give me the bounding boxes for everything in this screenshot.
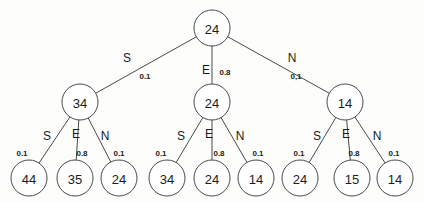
branch-edge-label-prob-left-edge-s: 0.1 xyxy=(16,149,28,158)
leaf-node-leaf-2-value: 35 xyxy=(68,172,82,187)
branch-edge-label-action-left-edge-s: S xyxy=(43,129,51,143)
leaf-node-leaf-9-value: 14 xyxy=(388,172,402,187)
leaf-node-leaf-6-value: 14 xyxy=(249,172,263,187)
branch-edge-label-action-left-edge-n: N xyxy=(101,129,110,143)
root-edge-label-prob-root-edge-e: 0.8 xyxy=(219,68,231,77)
branch-node-n-left-value: 34 xyxy=(73,96,87,111)
branch-edge-label-prob-left-edge-n: 0.1 xyxy=(113,149,125,158)
branch-edge-label-action-mid-edge-e: E xyxy=(205,127,213,141)
leaf-node-leaf-5-value: 24 xyxy=(205,172,219,187)
edge-root-to-n-right xyxy=(228,37,330,93)
branch-edge-label-prob-mid-edge-n: 0.1 xyxy=(252,149,264,158)
diagram-canvas: 24342414443524342414241514 S0.1E0.8N0,1S… xyxy=(0,0,424,202)
root-edge-label-action-root-edge-s: S xyxy=(123,51,131,65)
branch-edge-label-prob-mid-edge-e: 0.8 xyxy=(213,149,225,158)
edge-root-to-n-left xyxy=(96,37,197,93)
root-edge-label-prob-root-edge-n: 0,1 xyxy=(290,72,302,81)
branch-node-n-mid-value: 24 xyxy=(205,96,219,111)
branch-edge-label-action-mid-edge-n: N xyxy=(236,129,245,143)
branch-edge-label-action-mid-edge-s: S xyxy=(177,129,185,143)
branch-edge-label-prob-right-edge-s: 0.1 xyxy=(293,149,305,158)
branch-edge-label-prob-mid-edge-s: 0.1 xyxy=(155,149,167,158)
nodes-layer: 24342414443524342414241514 xyxy=(11,10,413,196)
branch-node-n-right-value: 14 xyxy=(338,96,352,111)
root-edge-label-action-root-edge-e: E xyxy=(202,63,210,77)
tree-diagram: 24342414443524342414241514 S0.1E0.8N0,1S… xyxy=(0,0,424,202)
root-node-value: 24 xyxy=(205,22,219,37)
leaf-node-leaf-7-value: 24 xyxy=(293,172,307,187)
branch-edge-label-action-right-edge-e: E xyxy=(342,127,350,141)
branch-edge-label-prob-right-edge-e: 0.8 xyxy=(348,149,360,158)
root-edge-label-prob-root-edge-s: 0.1 xyxy=(139,72,151,81)
branch-edge-label-action-right-edge-n: N xyxy=(373,129,382,143)
branch-edge-label-prob-left-edge-e: 0.8 xyxy=(76,149,88,158)
branch-edge-label-action-left-edge-e: E xyxy=(72,127,80,141)
branch-edge-label-action-right-edge-s: S xyxy=(313,129,321,143)
leaf-node-leaf-8-value: 15 xyxy=(345,172,359,187)
leaf-node-leaf-3-value: 24 xyxy=(112,172,126,187)
branch-edge-label-prob-right-edge-n: 0.1 xyxy=(388,149,400,158)
root-edge-label-action-root-edge-n: N xyxy=(288,51,297,65)
leaf-node-leaf-1-value: 44 xyxy=(22,172,36,187)
leaf-node-leaf-4-value: 34 xyxy=(160,172,174,187)
